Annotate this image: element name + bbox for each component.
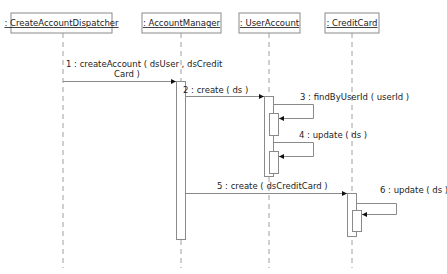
object-label: : AccountManager [143, 18, 221, 28]
message-label: 2 : create ( ds ) [183, 85, 248, 95]
message-label-cont: Card ) [114, 69, 140, 79]
object-label: : UserAccount [240, 18, 300, 28]
message-label: 4 : update ( ds ) [299, 130, 367, 140]
message-label: 3 : findByUserId ( userId ) [300, 92, 409, 102]
object-dispatcher[interactable]: : CreateAccountDispatcher [4, 13, 119, 33]
activation-user-nested-4 [270, 152, 279, 174]
message-2[interactable]: 2 : create ( ds ) [183, 85, 264, 97]
activation-manager [177, 82, 186, 240]
object-label: : CreditCard [326, 18, 377, 28]
object-manager[interactable]: : AccountManager [142, 13, 221, 33]
message-4-self[interactable]: 4 : update ( ds ) [274, 130, 367, 157]
sequence-diagram: : CreateAccountDispatcher : AccountManag… [0, 0, 447, 274]
object-credit-card[interactable]: : CreditCard [325, 13, 379, 33]
message-5[interactable]: 5 : create ( dsCreditCard ) [186, 181, 347, 194]
object-label: : CreateAccountDispatcher [4, 18, 119, 28]
message-6-self[interactable]: 6 : update ( ds ) [357, 185, 447, 215]
object-user-account[interactable]: : UserAccount [239, 13, 300, 33]
message-label: 6 : update ( ds ) [380, 185, 447, 195]
activation-card-nested-6 [353, 211, 362, 232]
message-3-self[interactable]: 3 : findByUserId ( userId ) [274, 92, 409, 119]
message-label: 5 : create ( dsCreditCard ) [217, 181, 328, 191]
activation-user-nested-3 [270, 114, 279, 136]
message-label: 1 : createAccount ( dsUser , dsCredit [66, 59, 223, 69]
message-1[interactable]: 1 : createAccount ( dsUser , dsCredit Ca… [63, 59, 223, 82]
